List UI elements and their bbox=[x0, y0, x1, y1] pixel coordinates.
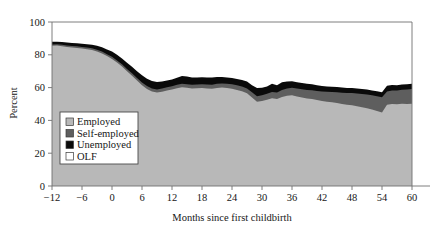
x-tick-label-0: 0 bbox=[109, 192, 114, 203]
y-axis-title: Percent bbox=[8, 87, 19, 119]
legend-label-olf: OLF bbox=[77, 151, 97, 162]
y-tick-label-20: 20 bbox=[35, 148, 46, 159]
x-tick-label-18: 18 bbox=[197, 192, 208, 203]
legend-swatch-unemployed bbox=[66, 141, 74, 149]
x-tick-label-24: 24 bbox=[227, 192, 238, 203]
x-tick-label-54: 54 bbox=[377, 192, 388, 203]
x-tick-label--12: −12 bbox=[44, 192, 60, 203]
x-tick-label-6: 6 bbox=[139, 192, 144, 203]
x-tick-label-30: 30 bbox=[257, 192, 268, 203]
legend-label-self_employed: Self-employed bbox=[77, 128, 140, 139]
x-tick-label--6: −6 bbox=[76, 192, 87, 203]
legend-swatch-employed bbox=[66, 118, 74, 126]
legend-label-unemployed: Unemployed bbox=[77, 139, 132, 150]
y-tick-label-40: 40 bbox=[35, 115, 46, 126]
legend-swatch-olf bbox=[66, 153, 74, 161]
x-axis-title: Months since first childbirth bbox=[172, 212, 292, 223]
figure-container: −12−606121824303642485460 020406080100 M… bbox=[0, 0, 436, 228]
x-tick-label-12: 12 bbox=[167, 192, 178, 203]
y-tick-label-80: 80 bbox=[35, 49, 46, 60]
x-tick-label-60: 60 bbox=[407, 192, 418, 203]
chart-legend: EmployedSelf-employedUnemployedOLF bbox=[60, 112, 140, 164]
y-axis-ticks: 020406080100 bbox=[29, 17, 52, 192]
x-tick-label-48: 48 bbox=[347, 192, 358, 203]
x-axis-ticks: −12−606121824303642485460 bbox=[44, 186, 417, 203]
legend-swatch-self_employed bbox=[66, 130, 74, 138]
legend-label-employed: Employed bbox=[77, 116, 121, 127]
y-tick-label-60: 60 bbox=[35, 82, 46, 93]
x-tick-label-42: 42 bbox=[317, 192, 328, 203]
y-tick-label-0: 0 bbox=[40, 181, 45, 192]
y-tick-label-100: 100 bbox=[29, 17, 45, 28]
stacked-area-chart: −12−606121824303642485460 020406080100 M… bbox=[0, 0, 436, 228]
x-tick-label-36: 36 bbox=[287, 192, 298, 203]
